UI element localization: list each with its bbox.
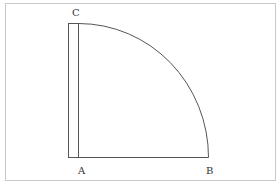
label-c: C [72, 7, 80, 18]
label-a: A [77, 165, 86, 176]
quarter-arc [79, 24, 209, 158]
diagram-canvas: C A B [0, 0, 279, 185]
narrow-rectangle [69, 24, 79, 158]
frame-border [6, 4, 276, 181]
label-b: B [206, 165, 213, 176]
